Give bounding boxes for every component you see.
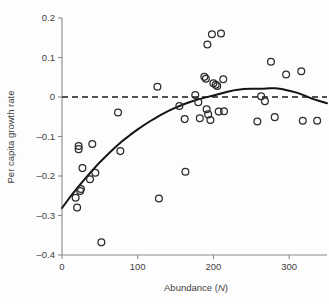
- data-point-marker: [220, 76, 227, 83]
- data-point-marker: [314, 117, 321, 124]
- data-point-marker: [218, 30, 225, 37]
- data-point-marker: [117, 148, 124, 155]
- data-point-marker: [182, 168, 189, 175]
- x-tick-label: 200: [205, 261, 221, 272]
- axes: [62, 18, 327, 255]
- data-point-marker: [271, 114, 278, 121]
- data-point-marker: [115, 109, 122, 116]
- x-axis-title: Abundance (N): [164, 282, 228, 293]
- fitted-curve: [62, 88, 327, 208]
- data-point-marker: [209, 31, 216, 38]
- data-point-marker: [154, 83, 161, 90]
- y-tick-label: –0.1: [37, 131, 56, 142]
- y-tick-label: –0.2: [37, 170, 56, 181]
- data-point-marker: [74, 204, 81, 211]
- data-point-marker: [268, 58, 275, 65]
- y-tick-label: 0.2: [42, 12, 55, 23]
- y-tick-label: 0: [50, 91, 55, 102]
- x-tick-label: 300: [281, 261, 297, 272]
- y-tick-label: 0.1: [42, 52, 55, 63]
- data-point-marker: [196, 115, 203, 122]
- data-point-marker: [98, 239, 105, 246]
- data-point-marker: [299, 117, 306, 124]
- data-point-marker: [181, 116, 188, 123]
- data-point-marker: [87, 176, 94, 183]
- data-point-marker: [298, 68, 305, 75]
- x-axis-ticks: 0100200300: [59, 255, 297, 272]
- data-point-marker: [254, 118, 261, 125]
- data-point-marker: [72, 194, 79, 201]
- scatter-plot-figure: 0.20.10–0.1–0.2–0.3–0.4 0100200300 Abund…: [0, 0, 329, 304]
- y-tick-label: –0.4: [37, 249, 56, 260]
- data-point-marker: [283, 71, 290, 78]
- data-point-marker: [204, 41, 211, 48]
- chart-canvas: 0.20.10–0.1–0.2–0.3–0.4 0100200300 Abund…: [0, 0, 329, 304]
- data-point-marker: [202, 75, 209, 82]
- data-point-marker: [92, 169, 99, 176]
- y-tick-label: –0.3: [37, 210, 56, 221]
- data-point-marker: [79, 165, 86, 172]
- x-tick-label: 0: [59, 261, 64, 272]
- y-axis-ticks: 0.20.10–0.1–0.2–0.3–0.4: [37, 12, 63, 260]
- data-point-marker: [262, 98, 269, 105]
- data-points: [72, 30, 320, 246]
- x-tick-label: 100: [130, 261, 146, 272]
- y-axis-title: Per capita growth rate: [5, 91, 16, 184]
- data-point-marker: [89, 141, 96, 148]
- data-point-marker: [156, 195, 163, 202]
